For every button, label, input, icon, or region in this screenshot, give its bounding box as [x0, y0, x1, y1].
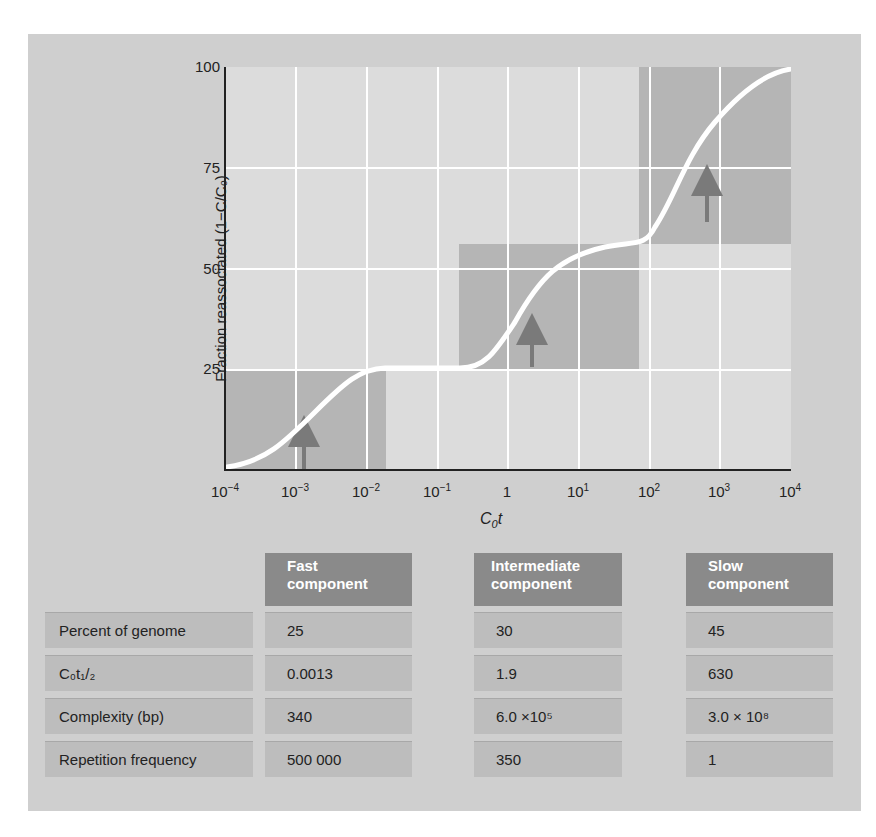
- x-tick: 10−3: [270, 482, 320, 500]
- table-cell: 45: [686, 612, 833, 648]
- table-cell: 1: [686, 741, 833, 777]
- row-label: Percent of genome: [45, 612, 253, 648]
- x-tick: 102: [624, 482, 674, 500]
- row-label: C₀t₁/₂: [45, 655, 253, 691]
- table-cell: 350: [474, 741, 622, 777]
- x-tick: 1: [482, 482, 532, 500]
- table-cell: 6.0 ×10⁵: [474, 698, 622, 734]
- x-tick: 104: [765, 482, 815, 500]
- table-cell: 340: [265, 698, 412, 734]
- header-fast-component: Fastcomponent: [265, 553, 412, 606]
- header-intermediate-component: Intermediatecomponent: [474, 553, 622, 606]
- table-cell: 630: [686, 655, 833, 691]
- x-tick: 10−1: [412, 482, 462, 500]
- table-cell: 3.0 × 10⁸: [686, 698, 833, 734]
- x-tick: 101: [553, 482, 603, 500]
- x-tick: 10−4: [200, 482, 250, 500]
- header-slow-component: Slowcomponent: [686, 553, 833, 606]
- table-cell: 0.0013: [265, 655, 412, 691]
- row-label: Complexity (bp): [45, 698, 253, 734]
- y-tick: 100: [180, 58, 220, 75]
- x-axis-label: C0t: [480, 510, 502, 530]
- y-axis-label: Fraction reassociated (1−C/C₀): [212, 129, 229, 429]
- table-cell: 500 000: [265, 741, 412, 777]
- x-axis: [224, 469, 791, 471]
- row-label: Repetition frequency: [45, 741, 253, 777]
- x-tick: 103: [694, 482, 744, 500]
- x-tick: 10−2: [341, 482, 391, 500]
- table-cell: 25: [265, 612, 412, 648]
- table-cell: 30: [474, 612, 622, 648]
- table-cell: 1.9: [474, 655, 622, 691]
- reassociation-curve: [227, 69, 791, 467]
- curve-layer: [225, 67, 791, 470]
- plot-area: [225, 67, 791, 470]
